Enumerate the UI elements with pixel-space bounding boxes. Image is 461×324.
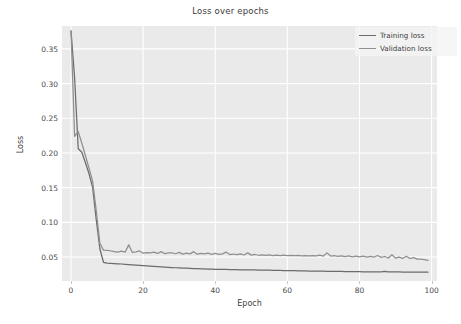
chart-legend: Training loss Validation loss [355, 27, 457, 56]
y-tick-label: 0.20 [22, 148, 58, 157]
gridlines [62, 26, 437, 281]
y-tick-label: 0.05 [22, 253, 58, 262]
y-tick-label: 0.30 [22, 79, 58, 88]
chart-figure: Loss over epochs Loss 0.050.100.150.200.… [0, 0, 461, 324]
x-tick-mark [71, 281, 72, 284]
x-tick-mark [287, 281, 288, 284]
y-tick-label: 0.15 [22, 183, 58, 192]
legend-swatch-validation-loss [359, 48, 376, 49]
y-tick-label: 0.10 [22, 218, 58, 227]
y-axis-tick-labels: 0.050.100.150.200.250.300.35 [18, 0, 58, 324]
legend-item-training-loss: Training loss [357, 30, 455, 40]
legend-label-training-loss: Training loss [380, 31, 425, 40]
series-lines [71, 31, 428, 272]
x-tick-mark [432, 281, 433, 284]
plot-canvas [62, 26, 437, 281]
x-tick-label: 60 [267, 286, 307, 295]
x-tick-label: 0 [51, 286, 91, 295]
x-tick-label: 80 [339, 286, 379, 295]
x-tick-mark [143, 281, 144, 284]
x-tick-label: 40 [195, 286, 235, 295]
legend-label-validation-loss: Validation loss [380, 44, 432, 53]
y-tick-label: 0.35 [22, 44, 58, 53]
page-title: Loss over epochs [0, 6, 461, 16]
legend-swatch-training-loss [359, 35, 376, 36]
x-tick-label: 20 [123, 286, 163, 295]
series-line-validation-loss [71, 31, 428, 261]
x-axis-label: Epoch [62, 299, 437, 308]
x-tick-mark [215, 281, 216, 284]
x-tick-mark [359, 281, 360, 284]
y-tick-label: 0.25 [22, 114, 58, 123]
x-tick-label: 100 [412, 286, 452, 295]
series-line-training-loss [71, 31, 428, 272]
plot-area [62, 26, 437, 281]
legend-item-validation-loss: Validation loss [357, 43, 455, 53]
